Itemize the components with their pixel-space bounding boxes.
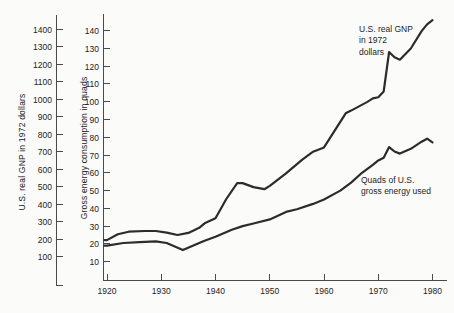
energy-tick-label: 70 bbox=[0, 151, 99, 161]
energy-tick-label: 40 bbox=[0, 204, 99, 214]
gnp-curve-annotation: U.S. real GNP in 1972 dollars bbox=[359, 24, 413, 58]
year-tick-label: 1980 bbox=[418, 286, 448, 296]
energy-tick-label: 100 bbox=[0, 97, 99, 107]
energy-tick-label: 120 bbox=[0, 62, 99, 72]
energy-tick-label: 80 bbox=[0, 133, 99, 143]
energy-tick-label: 110 bbox=[0, 79, 99, 89]
energy-tick-label: 30 bbox=[0, 222, 99, 232]
energy-tick-label: 60 bbox=[0, 168, 99, 178]
year-tick-label: 1950 bbox=[255, 286, 285, 296]
chart-page: U.S. real GNP in 1972 dollars Gross ener… bbox=[0, 0, 454, 313]
energy-curve-annotation: Quads of U.S. gross energy used bbox=[361, 175, 431, 198]
energy-tick-label: 20 bbox=[0, 239, 99, 249]
energy-tick-label: 90 bbox=[0, 115, 99, 125]
year-tick-label: 1930 bbox=[146, 286, 176, 296]
year-tick-label: 1960 bbox=[309, 286, 339, 296]
energy-tick-label: 140 bbox=[0, 26, 99, 36]
energy-tick-label: 130 bbox=[0, 44, 99, 54]
year-tick-label: 1970 bbox=[363, 286, 393, 296]
energy-tick-label: 10 bbox=[0, 257, 99, 267]
gnp-energy-chart: U.S. real GNP in 1972 dollars Gross ener… bbox=[0, 0, 454, 313]
year-tick-label: 1920 bbox=[92, 286, 122, 296]
year-tick-label: 1940 bbox=[201, 286, 231, 296]
energy-tick-label: 50 bbox=[0, 186, 99, 196]
